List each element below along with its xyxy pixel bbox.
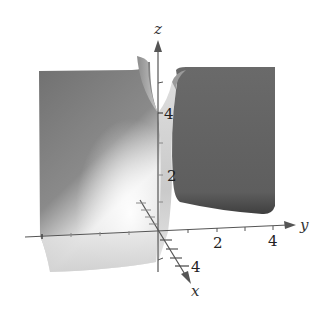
x-axis-label: x [191, 282, 200, 300]
y-axis-label: y [299, 216, 309, 234]
y-tick-label-2: 2 [213, 234, 223, 252]
surface-left-sheet [39, 56, 161, 272]
z-axis-label: z [153, 20, 162, 38]
surface-plot-3d: z 4 2 y 2 4 4 x [0, 0, 330, 318]
y-tick-label-4: 4 [268, 232, 278, 250]
surface-right-sheet [172, 67, 275, 214]
x-tick-label-4: 4 [191, 258, 201, 276]
z-tick-label-2: 2 [167, 167, 177, 185]
z-tick-label-4: 4 [164, 105, 174, 123]
